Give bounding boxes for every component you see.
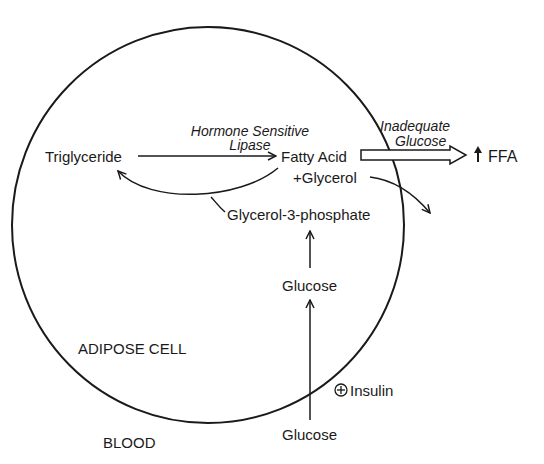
reesterification-arrow bbox=[118, 168, 278, 194]
node-fatty-acid: Fatty Acid bbox=[281, 149, 347, 164]
insulin-label: Insulin bbox=[350, 383, 393, 398]
node-glycerol: +Glycerol bbox=[293, 170, 357, 185]
node-ffa: FFA bbox=[488, 149, 517, 165]
node-triglyceride: Triglyceride bbox=[45, 149, 122, 164]
inadequate-glucose-label-line2: Glucose bbox=[395, 134, 446, 148]
adipose-cell-membrane bbox=[12, 27, 404, 423]
blood-label: BLOOD bbox=[103, 435, 156, 450]
g3p-branch bbox=[211, 197, 225, 212]
adipose-cell-label: ADIPOSE CELL bbox=[78, 341, 186, 356]
node-glycerol-3-phosphate: Glycerol-3-phosphate bbox=[227, 207, 370, 222]
node-glucose-cell: Glucose bbox=[282, 278, 337, 293]
diagram-canvas bbox=[0, 0, 544, 464]
inadequate-glucose-label-line1: Inadequate bbox=[380, 119, 450, 133]
lipase-label-line1: Hormone Sensitive bbox=[175, 124, 325, 138]
node-glucose-blood: Glucose bbox=[282, 427, 337, 442]
